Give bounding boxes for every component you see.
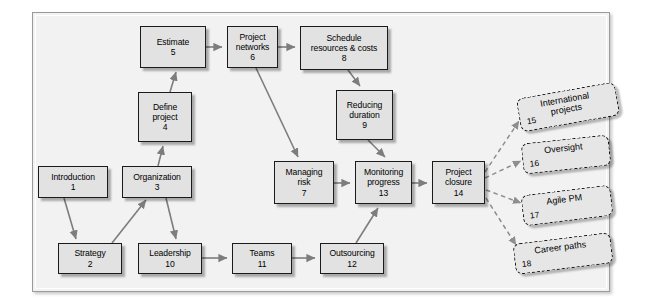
node-label: project (152, 112, 177, 122)
node-number: 7 (302, 188, 307, 198)
dashed-node-number: 15 (526, 115, 537, 126)
node-number: 5 (171, 47, 176, 57)
node-number: 10 (165, 259, 174, 269)
node-number: 4 (163, 122, 168, 132)
connector-n6-n7 (256, 68, 298, 157)
node-number: 13 (379, 188, 388, 198)
connector-n8-n9 (348, 70, 360, 86)
node-label: Define (153, 102, 177, 112)
dashed-node-number: 17 (529, 209, 539, 220)
node-number: 14 (454, 188, 463, 198)
connector-n3-n10 (166, 198, 176, 239)
node-13[interactable]: Monitoringprogress13 (355, 161, 412, 204)
node-label: Managing (286, 167, 323, 177)
connector-n14-d15 (485, 121, 519, 172)
node-14[interactable]: Projectclosure14 (432, 161, 485, 204)
node-label: resources & costs (311, 43, 378, 53)
node-7[interactable]: Managingrisk7 (274, 161, 334, 204)
connector-n14-d18 (486, 198, 516, 245)
node-4[interactable]: Defineproject4 (138, 92, 192, 142)
node-12[interactable]: Outsourcing12 (320, 243, 384, 274)
dashed-node-number: 16 (529, 158, 539, 169)
node-number: 2 (88, 259, 93, 269)
node-number: 3 (155, 182, 160, 192)
node-11[interactable]: Teams11 (232, 243, 292, 274)
node-1[interactable]: Introduction1 (38, 166, 108, 198)
connector-n2-n3 (112, 200, 146, 243)
connector-n1-n2 (64, 198, 76, 239)
node-label: Project (239, 32, 265, 42)
node-label: Organization (133, 172, 181, 182)
node-number: 11 (258, 259, 267, 269)
node-10[interactable]: Leadership10 (138, 243, 202, 274)
node-label: Estimate (157, 37, 190, 47)
node-label: Leadership (149, 248, 191, 258)
dashed-node-number: 18 (521, 258, 531, 269)
connector-n9-n13 (368, 140, 385, 157)
node-label: risk (298, 177, 311, 187)
node-6[interactable]: Projectnetworks6 (227, 26, 278, 68)
node-number: 12 (347, 259, 356, 269)
node-label: Reducing (347, 100, 383, 110)
node-2[interactable]: Strategy2 (58, 243, 122, 274)
node-number: 8 (342, 53, 347, 63)
connector-n14-d17 (486, 190, 521, 203)
node-label: Introduction (51, 172, 95, 182)
node-number: 9 (362, 120, 367, 130)
node-label: duration (349, 110, 379, 120)
node-label: closure (445, 177, 472, 187)
node-number: 6 (250, 52, 255, 62)
dashed-node-label: Oversight (522, 140, 605, 158)
node-label: Outsourcing (329, 248, 374, 258)
node-label: Monitoring (364, 167, 403, 177)
node-label: networks (236, 42, 270, 52)
node-3[interactable]: Organization3 (122, 166, 192, 198)
connector-n12-n13 (356, 208, 378, 243)
node-label: progress (367, 177, 400, 187)
figure-canvas: Introduction1Strategy2Organization3Defin… (0, 0, 646, 306)
connector-n3-n4 (158, 146, 163, 166)
node-label: Strategy (74, 248, 105, 258)
connector-n4-n5 (170, 72, 176, 92)
node-5[interactable]: Estimate5 (140, 26, 206, 68)
node-number: 1 (71, 182, 76, 192)
node-9[interactable]: Reducingduration9 (336, 90, 393, 140)
dashed-node-label: Agile PM (522, 190, 607, 210)
node-label: Project (445, 167, 471, 177)
node-label: Schedule (326, 33, 361, 43)
node-label: Teams (250, 248, 275, 258)
node-8[interactable]: Scheduleresources & costs8 (300, 26, 388, 70)
